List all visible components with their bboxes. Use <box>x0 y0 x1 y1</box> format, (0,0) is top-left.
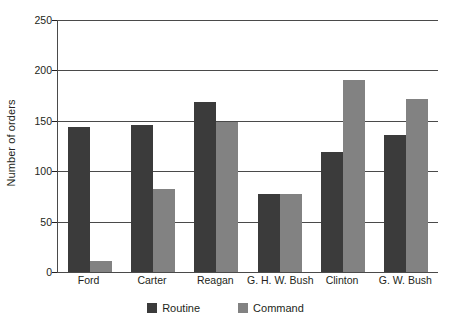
bar-group <box>68 20 112 272</box>
y-tick-label: 200 <box>22 65 52 75</box>
legend-item-routine: Routine <box>147 303 200 314</box>
bar-command <box>90 261 112 272</box>
bar-command <box>406 99 428 272</box>
plot-area <box>57 20 438 273</box>
y-tick-label: 100 <box>22 166 52 176</box>
bar-command <box>153 189 175 272</box>
bar-group <box>321 20 365 272</box>
bar-command <box>216 122 238 272</box>
bars-layer <box>58 20 438 272</box>
chart-legend: Routine Command <box>0 299 451 317</box>
bar-routine <box>258 194 280 272</box>
bar-routine <box>68 127 90 272</box>
x-tick-label: Clinton <box>310 274 373 287</box>
bar-routine <box>194 102 216 272</box>
routine-swatch-icon <box>147 303 157 313</box>
bar-routine <box>384 135 406 272</box>
y-tick-label: 250 <box>22 15 52 25</box>
legend-label-command: Command <box>253 303 304 314</box>
y-axis-ticks: 050100150200250 <box>18 0 52 323</box>
bar-chart: Number of orders 050100150200250 FordCar… <box>0 0 451 323</box>
bar-command <box>280 194 302 272</box>
bar-group <box>194 20 238 272</box>
y-tick-label: 150 <box>22 116 52 126</box>
command-swatch-icon <box>238 303 248 313</box>
bar-routine <box>321 152 343 272</box>
x-axis-labels: FordCarterReaganG. H. W. BushClintonG. W… <box>57 274 437 290</box>
bar-group <box>258 20 302 272</box>
y-axis-title-text: Number of orders <box>5 99 17 186</box>
x-tick-label: Carter <box>120 274 183 287</box>
x-tick-label: Reagan <box>184 274 247 287</box>
bar-group <box>131 20 175 272</box>
x-tick-label: G. H. W. Bush <box>247 274 310 287</box>
x-tick-label: G. W. Bush <box>374 274 437 287</box>
y-tick-label: 0 <box>22 267 52 277</box>
legend-item-command: Command <box>238 303 304 314</box>
bar-group <box>384 20 428 272</box>
bar-command <box>343 80 365 272</box>
legend-label-routine: Routine <box>162 303 200 314</box>
bar-routine <box>131 125 153 272</box>
y-tick-label: 50 <box>22 217 52 227</box>
x-tick-label: Ford <box>57 274 120 287</box>
